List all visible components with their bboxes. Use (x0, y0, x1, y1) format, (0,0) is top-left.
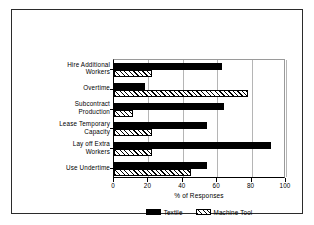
x-tick-mark (251, 178, 252, 182)
gridline (183, 60, 184, 177)
category-tick-mark (110, 148, 113, 149)
legend-entry-machine-tool: Machine Tool (196, 209, 253, 216)
figure-frame: Hire AdditionalWorkersOvertimeSubcontrac… (11, 9, 303, 214)
category-label: Use Undertime (30, 164, 110, 172)
legend-entry-textile: Textile (146, 209, 183, 216)
legend-swatch-machine-tool-icon (196, 209, 211, 216)
category-tick-mark (110, 128, 113, 129)
bar-textile (114, 83, 145, 90)
bar-group (114, 122, 284, 136)
bar-machine-tool (114, 129, 152, 136)
x-tick-label: 80 (247, 182, 254, 189)
category-tick-mark (110, 69, 113, 70)
x-tick-label: 100 (280, 182, 291, 189)
category-axis-labels: Hire AdditionalWorkersOvertimeSubcontrac… (30, 59, 110, 178)
bar-group (114, 162, 284, 176)
gridline (252, 60, 253, 177)
bar-textile (114, 142, 271, 149)
category-tick-mark (110, 168, 113, 169)
bar-machine-tool (114, 149, 152, 156)
legend-label-machine-tool: Machine Tool (214, 209, 253, 216)
x-tick-mark (182, 178, 183, 182)
bar-textile (114, 122, 207, 129)
category-label: Hire AdditionalWorkers (30, 61, 110, 76)
gridline (148, 60, 149, 177)
category-tick-mark (110, 89, 113, 90)
x-tick-mark (285, 178, 286, 182)
x-tick-mark (216, 178, 217, 182)
bar-group (114, 63, 284, 77)
bar-textile (114, 63, 222, 70)
x-axis-tick-labels: 020406080100 (113, 182, 285, 192)
chart-legend: Textile Machine Tool (113, 207, 285, 217)
bar-machine-tool (114, 110, 133, 117)
bar-machine-tool (114, 169, 191, 176)
x-tick-label: 0 (111, 182, 115, 189)
bar-textile (114, 162, 207, 169)
category-label: Lay off ExtraWorkers (30, 140, 110, 155)
gridline (217, 60, 218, 177)
chart-figure: Hire AdditionalWorkersOvertimeSubcontrac… (0, 0, 314, 225)
bar-group (114, 83, 284, 97)
bar-machine-tool (114, 90, 248, 97)
category-tick-mark (110, 109, 113, 110)
gridline (286, 60, 287, 177)
x-tick-label: 20 (144, 182, 151, 189)
x-tick-label: 60 (213, 182, 220, 189)
category-label: SubcontractProduction (30, 100, 110, 115)
x-tick-mark (113, 178, 114, 182)
category-label: Overtime (30, 84, 110, 92)
category-label: Lease TemporaryCapacity (30, 120, 110, 135)
bar-group (114, 142, 284, 156)
legend-swatch-textile-icon (146, 209, 161, 216)
bar-textile (114, 103, 224, 110)
plot-area (113, 59, 285, 178)
bar-machine-tool (114, 70, 152, 77)
x-tick-label: 40 (178, 182, 185, 189)
x-tick-mark (147, 178, 148, 182)
x-axis-title: % of Responses (113, 192, 285, 199)
legend-label-textile: Textile (164, 209, 183, 216)
bar-group (114, 103, 284, 117)
